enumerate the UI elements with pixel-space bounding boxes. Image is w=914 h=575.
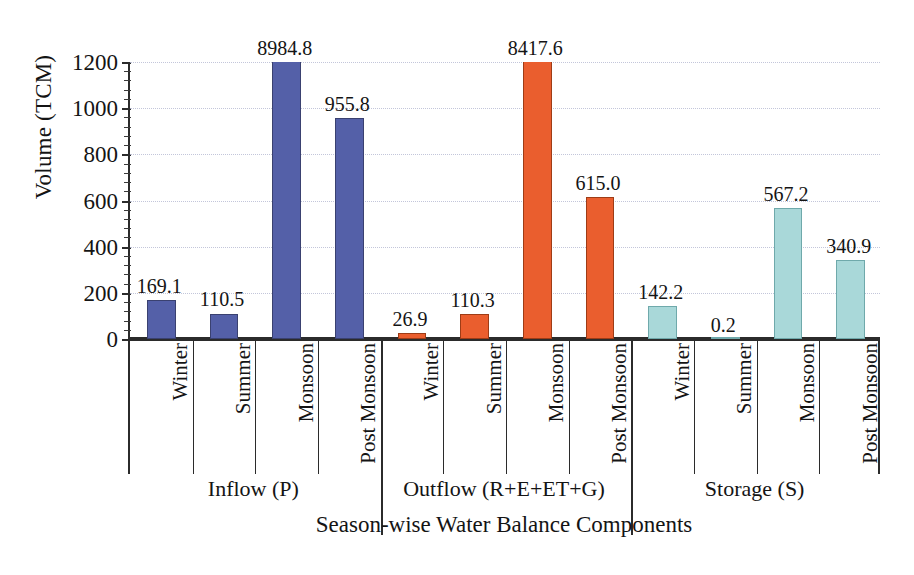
- bar-orange-monsoon: [523, 62, 552, 339]
- y-minor-tick: [124, 182, 131, 183]
- y-minor-tick: [124, 173, 131, 174]
- bar-blue-summer: [210, 314, 239, 340]
- y-minor-tick: [124, 127, 131, 128]
- category-label-monsoon: Monsoon: [295, 343, 317, 475]
- y-minor-tick: [124, 237, 131, 238]
- y-minor-tick: [124, 117, 131, 118]
- y-tick-label-200: 200: [48, 281, 118, 304]
- cell-separator: [318, 339, 319, 474]
- y-axis-tick-labels: 020040060080010001200: [46, 0, 118, 575]
- y-tick-label-400: 400: [48, 235, 118, 258]
- y-minor-tick: [124, 284, 131, 285]
- category-label-summer: Summer: [733, 343, 755, 475]
- cell-separator: [506, 339, 507, 474]
- group-label-storage: Storage (S): [705, 474, 805, 504]
- y-tick-label-1200: 1200: [48, 51, 118, 74]
- value-label: 955.8: [325, 94, 370, 114]
- cell-separator: [694, 339, 695, 474]
- category-label-post-monsoon: Post Monsoon: [608, 343, 630, 475]
- group-label-outflow: Outflow (R+E+ET+G): [403, 474, 605, 504]
- y-minor-tick: [124, 136, 131, 137]
- y-minor-tick: [124, 321, 131, 322]
- gridline-400: [130, 247, 880, 248]
- value-label: 340.9: [826, 236, 871, 256]
- bar-blue-winter: [147, 300, 176, 339]
- value-label: 615.0: [576, 173, 621, 193]
- value-label: 8417.6: [508, 38, 563, 58]
- bar-blue-post-monsoon: [335, 118, 364, 339]
- y-minor-tick: [124, 219, 131, 220]
- y-tick-label-800: 800: [48, 143, 118, 166]
- y-minor-tick: [124, 71, 131, 72]
- cell-separator: [757, 339, 758, 474]
- y-minor-tick: [124, 99, 131, 100]
- value-label: 110.5: [200, 289, 244, 309]
- y-minor-tick: [124, 274, 131, 275]
- y-minor-tick: [124, 265, 131, 266]
- gridline-1200: [130, 62, 880, 63]
- category-label-band: WinterSummerMonsoonPost MonsoonWinterSum…: [128, 339, 880, 474]
- value-label: 142.2: [638, 282, 683, 302]
- value-label: 8984.8: [257, 38, 312, 58]
- y-minor-tick: [124, 302, 131, 303]
- value-label: 567.2: [764, 184, 809, 204]
- x-axis-title: Season-wise Water Balance Components: [128, 512, 880, 538]
- value-label: 0.2: [711, 315, 736, 335]
- cell-separator: [569, 339, 570, 474]
- bar-teal-monsoon: [774, 208, 803, 339]
- gridline-800: [130, 154, 880, 155]
- cell-separator: [255, 339, 256, 474]
- category-label-winter: Winter: [169, 343, 191, 475]
- category-label-summer: Summer: [232, 343, 254, 475]
- category-band-top-rule: [128, 339, 880, 341]
- group-label-inflow: Inflow (P): [208, 474, 299, 504]
- y-minor-tick: [124, 330, 131, 331]
- y-minor-tick: [124, 80, 131, 81]
- category-label-winter: Winter: [671, 343, 693, 475]
- y-tick-label-600: 600: [48, 189, 118, 212]
- cell-separator: [443, 339, 444, 474]
- y-minor-tick: [124, 210, 131, 211]
- y-tick-label-0: 0: [48, 328, 118, 351]
- value-label: 26.9: [393, 309, 428, 329]
- y-minor-tick: [124, 228, 131, 229]
- group-label-band: Inflow (P)Outflow (R+E+ET+G)Storage (S): [128, 474, 880, 508]
- category-label-winter: Winter: [420, 343, 442, 475]
- y-minor-tick: [124, 90, 131, 91]
- bar-teal-winter: [648, 306, 677, 339]
- y-minor-tick: [124, 311, 131, 312]
- y-minor-tick: [124, 256, 131, 257]
- bar-orange-post-monsoon: [586, 197, 615, 339]
- y-minor-tick: [124, 191, 131, 192]
- gridline-1000: [130, 108, 880, 109]
- value-label: 169.1: [137, 276, 182, 296]
- category-label-post-monsoon: Post Monsoon: [357, 343, 379, 475]
- cell-separator: [193, 339, 194, 474]
- y-tick-label-1000: 1000: [48, 97, 118, 120]
- bar-orange-summer: [460, 314, 489, 339]
- water-balance-bar-chart: Volume (TCM) 020040060080010001200 Winte…: [0, 0, 914, 575]
- y-minor-tick: [124, 164, 131, 165]
- cell-separator: [819, 339, 820, 474]
- value-label: 110.3: [451, 290, 495, 310]
- bar-teal-post-monsoon: [836, 260, 865, 339]
- bar-blue-monsoon: [272, 62, 301, 339]
- y-minor-tick: [124, 145, 131, 146]
- category-label-monsoon: Monsoon: [545, 343, 567, 475]
- category-label-post-monsoon: Post Monsoon: [859, 343, 881, 475]
- category-label-summer: Summer: [483, 343, 505, 475]
- category-label-monsoon: Monsoon: [796, 343, 818, 475]
